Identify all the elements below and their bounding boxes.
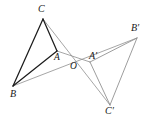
- segment-ca: [43, 19, 57, 51]
- geometry-canvas: [0, 0, 156, 123]
- vertex-label-b-prime: B′: [131, 23, 139, 33]
- vertex-label-a-prime: A′: [89, 51, 97, 61]
- vertex-label-a: A: [54, 53, 60, 63]
- segment-b-prime-c-prime: [110, 38, 137, 105]
- triangle-a-prime-b-prime-c-prime: [90, 38, 137, 105]
- vertex-label-o: O: [70, 62, 77, 72]
- geometry-figure: C B A O A′ B′ C′: [0, 0, 156, 123]
- vertex-label-c: C: [38, 4, 45, 14]
- vertex-label-b: B: [10, 89, 16, 99]
- segment-ab: [13, 51, 57, 86]
- vertex-label-c-prime: C′: [105, 106, 114, 116]
